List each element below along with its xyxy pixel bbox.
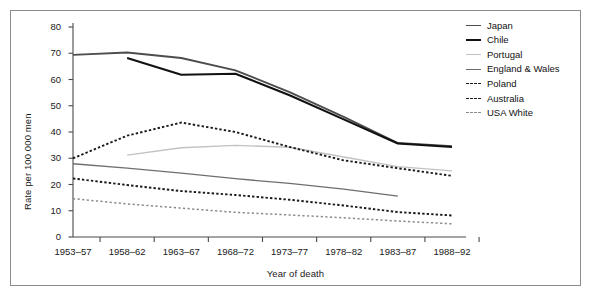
legend-swatch-icon (466, 83, 481, 84)
series-line-usa-white (73, 199, 452, 224)
series-line-japan (73, 52, 452, 146)
legend-swatch-icon (466, 112, 481, 113)
legend-swatch-icon (466, 25, 481, 26)
legend-item-poland: Poland (466, 76, 581, 91)
y-tick-label: 20 (35, 179, 61, 190)
x-axis-label: Year of death (0, 268, 591, 279)
x-tick-label: 1978–82 (325, 246, 362, 257)
legend-label: England & Wales (487, 64, 560, 74)
x-tick-label: 1988–92 (434, 246, 471, 257)
y-tick-label: 0 (35, 231, 61, 242)
x-tick-label: 1963–67 (163, 246, 200, 257)
legend-swatch-icon (466, 69, 481, 70)
legend-swatch-icon (466, 98, 481, 99)
y-tick-label: 80 (35, 21, 61, 32)
x-tick-label: 1968–72 (217, 246, 254, 257)
series-line-australia (73, 178, 452, 215)
series-line-portugal (127, 145, 452, 170)
chart-figure: Rate per 100 000 men Year of death 01020… (0, 0, 591, 296)
x-tick-label: 1973–77 (271, 246, 308, 257)
legend-label: Poland (487, 79, 517, 89)
legend-label: Portugal (487, 50, 522, 60)
y-tick-label: 70 (35, 47, 61, 58)
legend-item-japan: Japan (466, 18, 581, 33)
legend-item-australia: Australia (466, 91, 581, 106)
legend-item-england-wales: England & Wales (466, 62, 581, 77)
y-tick-label: 40 (35, 126, 61, 137)
y-tick-label: 30 (35, 152, 61, 163)
legend-item-chile: Chile (466, 33, 581, 48)
y-tick-label: 50 (35, 100, 61, 111)
legend-label: USA White (487, 108, 533, 118)
series-line-england-wales (73, 164, 398, 196)
legend-label: Australia (487, 94, 524, 104)
chart-legend: JapanChilePortugalEngland & WalesPolandA… (466, 18, 581, 120)
x-tick-label: 1953–57 (55, 246, 92, 257)
y-tick-label: 60 (35, 74, 61, 85)
y-axis-label: Rate per 100 000 men (22, 113, 33, 210)
x-tick-label: 1958–62 (109, 246, 146, 257)
legend-swatch-icon (466, 54, 481, 55)
legend-item-usa-white: USA White (466, 106, 581, 121)
legend-label: Japan (487, 21, 513, 31)
series-line-chile (127, 58, 452, 147)
legend-label: Chile (487, 35, 509, 45)
x-tick-label: 1983–87 (379, 246, 416, 257)
legend-swatch-icon (466, 39, 481, 41)
legend-item-portugal: Portugal (466, 47, 581, 62)
y-tick-label: 10 (35, 205, 61, 216)
